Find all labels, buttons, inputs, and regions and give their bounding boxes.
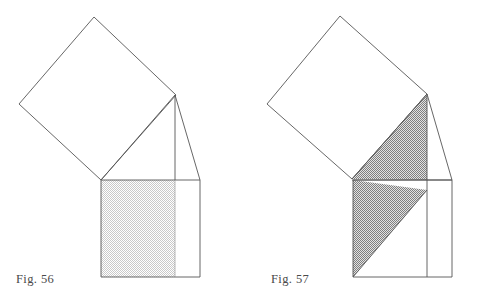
fig57-apex-hypotenuse-line [427, 94, 452, 180]
fig56-left-slope-line [101, 95, 175, 180]
figure-57 [267, 16, 452, 277]
figure-56-caption: Fig. 56 [16, 272, 54, 287]
geometry-figure-canvas [0, 0, 477, 307]
figure-56 [19, 17, 200, 277]
figure-57-caption: Fig. 57 [271, 272, 309, 287]
fig56-apex-hypotenuse-line [175, 95, 200, 180]
fig57-shaded-lower-triangle [353, 180, 427, 277]
fig56-shaded-rectangle [101, 180, 175, 277]
figure-page: Fig. 56 Fig. 57 [0, 0, 477, 307]
fig56-tilted-square [19, 17, 176, 180]
